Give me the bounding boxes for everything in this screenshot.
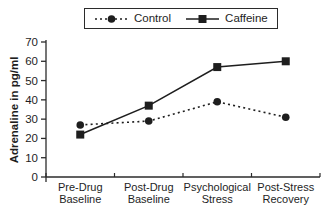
- control-point-marker: [282, 113, 290, 121]
- x-category-label: Stress: [202, 193, 234, 205]
- caffeine-solid-square-swatch: [185, 14, 220, 24]
- y-tick-label: 10: [25, 152, 38, 164]
- y-tick-label: 50: [25, 75, 38, 87]
- y-tick-label: 60: [25, 55, 38, 67]
- y-tick-label: 30: [25, 113, 38, 125]
- control-point-marker: [76, 121, 84, 129]
- y-tick-label: 20: [25, 132, 38, 144]
- caffeine-point-marker: [213, 63, 221, 71]
- series-caffeine: [76, 57, 290, 138]
- plot-area: 010203040506070Pre-DrugBaselinePost-Drug…: [0, 0, 323, 215]
- y-tick-label: 0: [32, 171, 38, 183]
- control-point-marker: [213, 98, 221, 106]
- legend-label-control: Control: [134, 13, 171, 25]
- x-category-label: Pre-Drug: [58, 181, 103, 193]
- caffeine-point-marker: [145, 102, 153, 110]
- x-category-labels: Pre-DrugBaselinePost-DrugBaselinePsychol…: [58, 181, 315, 205]
- legend-label-caffeine: Caffeine: [225, 13, 268, 25]
- caffeine-point-marker: [76, 131, 84, 139]
- x-category-label: Post-Drug: [124, 181, 174, 193]
- caffeine-point-marker: [282, 57, 290, 65]
- legend-item-control: Control: [94, 13, 171, 25]
- x-category-label: Baseline: [128, 193, 170, 205]
- x-category-label: Baseline: [59, 193, 101, 205]
- control-point-marker: [145, 117, 153, 125]
- x-category-label: Recovery: [263, 193, 310, 205]
- legend-item-caffeine: Caffeine: [185, 13, 268, 25]
- adrenaline-line-chart-figure: 010203040506070Pre-DrugBaselinePost-Drug…: [0, 0, 323, 215]
- legend: Control Caffeine: [84, 8, 278, 29]
- x-category-label: Post-Stress: [257, 181, 314, 193]
- y-ticks: 010203040506070: [25, 36, 46, 183]
- y-axis-title: Adrenaline in pg/ml: [7, 38, 21, 183]
- control-dotted-circle-swatch: [94, 14, 129, 24]
- x-category-label: Psychological: [184, 181, 251, 193]
- series-control: [76, 98, 289, 129]
- y-tick-label: 40: [25, 94, 38, 106]
- y-tick-label: 70: [25, 36, 38, 48]
